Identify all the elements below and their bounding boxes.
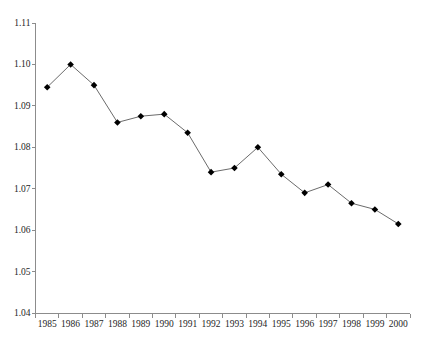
- x-tick-label: 1997: [319, 319, 338, 329]
- x-tick-label: 1993: [225, 319, 244, 329]
- x-tick-label: 1989: [131, 319, 150, 329]
- y-tick-label: 1.05: [14, 267, 31, 277]
- data-point-marker: [208, 169, 215, 176]
- x-tick-label: 2000: [389, 319, 408, 329]
- y-tick-label: 1.07: [14, 184, 31, 194]
- x-tick-label: 1996: [295, 319, 314, 329]
- data-point-marker: [138, 113, 145, 120]
- series-line: [47, 64, 398, 224]
- x-tick-label: 1999: [365, 319, 384, 329]
- x-tick-label: 1987: [85, 319, 104, 329]
- x-tick-label: 1988: [108, 319, 127, 329]
- chart-figure: 1.041.051.061.071.081.091.101.1119851986…: [0, 0, 426, 347]
- x-tick-label: 1985: [38, 319, 57, 329]
- line-chart: 1.041.051.061.071.081.091.101.1119851986…: [0, 0, 426, 347]
- x-tick-label: 1998: [342, 319, 361, 329]
- x-tick-label: 1986: [61, 319, 80, 329]
- x-tick-label: 1995: [272, 319, 291, 329]
- y-tick-label: 1.10: [14, 59, 31, 69]
- y-tick-label: 1.09: [14, 101, 31, 111]
- y-tick-label: 1.04: [14, 308, 31, 318]
- x-tick-label: 1992: [202, 319, 221, 329]
- y-tick-label: 1.08: [14, 142, 31, 152]
- x-tick-label: 1991: [178, 319, 197, 329]
- y-tick-label: 1.06: [14, 225, 31, 235]
- data-point-marker: [395, 221, 402, 228]
- y-tick-label: 1.11: [14, 18, 31, 28]
- x-tick-label: 1994: [248, 319, 267, 329]
- data-point-marker: [114, 119, 121, 126]
- x-tick-label: 1990: [155, 319, 174, 329]
- data-point-marker: [372, 206, 379, 213]
